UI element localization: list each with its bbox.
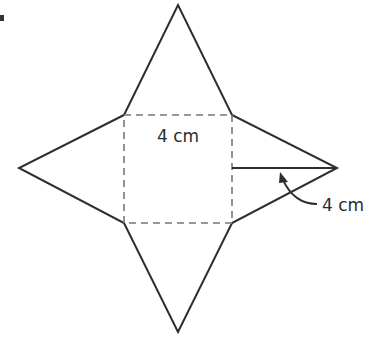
arrowhead-icon [279,172,288,183]
slant-height-label: 4 cm [322,195,364,215]
item-marker [0,15,4,21]
pyramid-net-diagram: 4 cm 4 cm [0,0,376,344]
base-label: 4 cm [157,126,199,146]
leader-arrow [283,180,317,204]
